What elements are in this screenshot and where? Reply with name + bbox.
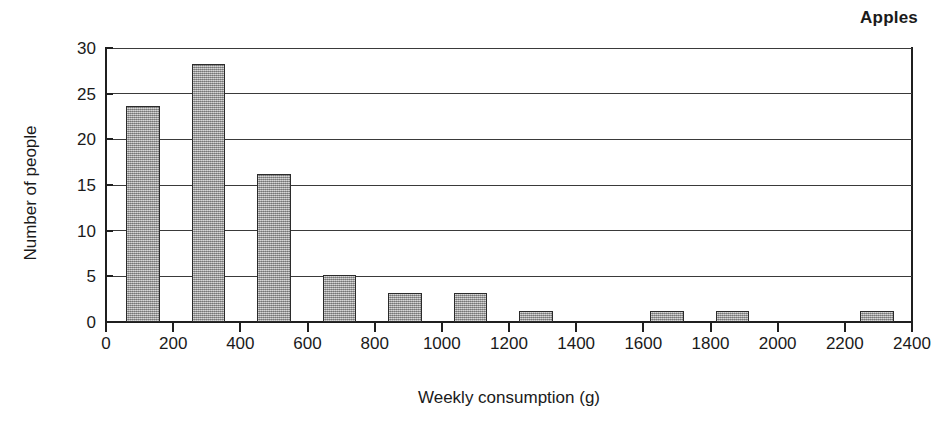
bar [388, 293, 422, 322]
x-tick-mark [239, 321, 241, 332]
x-tick-mark [844, 321, 846, 332]
x-tick-label: 2200 [815, 334, 875, 354]
y-tick-label: 20 [50, 131, 96, 148]
x-tick-label: 1600 [613, 334, 673, 354]
x-tick-label: 600 [278, 334, 338, 354]
y-axis-title: Number of people [21, 88, 41, 298]
y-tick-mark [106, 321, 113, 323]
bar [323, 275, 357, 322]
x-tick-mark [710, 321, 712, 332]
gridline [106, 93, 912, 94]
gridline [106, 48, 912, 49]
x-tick-label: 1800 [681, 334, 741, 354]
bar [257, 174, 291, 322]
y-tick-mark [106, 47, 113, 49]
bar [126, 106, 160, 322]
gridline [106, 230, 912, 231]
y-tick-label: 5 [50, 268, 96, 285]
bar [860, 311, 894, 322]
y-tick-label: 0 [50, 314, 96, 331]
bar [716, 311, 750, 322]
y-tick-mark [106, 93, 113, 95]
y-tick-mark [106, 230, 113, 232]
y-tick-label: 10 [50, 223, 96, 240]
y-tick-label: 30 [50, 40, 96, 57]
x-tick-mark [105, 321, 107, 332]
x-tick-mark [307, 321, 309, 332]
plot-area [106, 48, 912, 322]
x-tick-mark [777, 321, 779, 332]
y-tick-mark [106, 184, 113, 186]
x-tick-label: 800 [345, 334, 405, 354]
x-tick-mark [642, 321, 644, 332]
histogram-chart: Apples Number of people 051015202530 020… [0, 0, 952, 429]
y-tick-label: 25 [50, 86, 96, 103]
bar [519, 311, 553, 322]
x-tick-mark [441, 321, 443, 332]
x-tick-mark [374, 321, 376, 332]
x-tick-label: 1000 [412, 334, 472, 354]
x-tick-mark [911, 321, 913, 332]
y-tick-label: 15 [50, 177, 96, 194]
bar [192, 64, 226, 322]
x-tick-mark [172, 321, 174, 332]
gridline [106, 276, 912, 277]
gridline [106, 185, 912, 186]
bar [454, 293, 488, 322]
x-tick-label: 1400 [546, 334, 606, 354]
x-tick-label: 2400 [882, 334, 942, 354]
x-tick-label: 2000 [748, 334, 808, 354]
x-axis-title: Weekly consumption (g) [106, 388, 912, 408]
x-tick-mark [508, 321, 510, 332]
x-tick-label: 1200 [479, 334, 539, 354]
chart-title: Apples [860, 8, 918, 28]
gridline [106, 139, 912, 140]
x-tick-label: 0 [76, 334, 136, 354]
x-tick-label: 400 [210, 334, 270, 354]
y-tick-mark [106, 138, 113, 140]
y-tick-mark [106, 275, 113, 277]
x-tick-label: 200 [143, 334, 203, 354]
x-tick-mark [575, 321, 577, 332]
bar [650, 311, 684, 322]
